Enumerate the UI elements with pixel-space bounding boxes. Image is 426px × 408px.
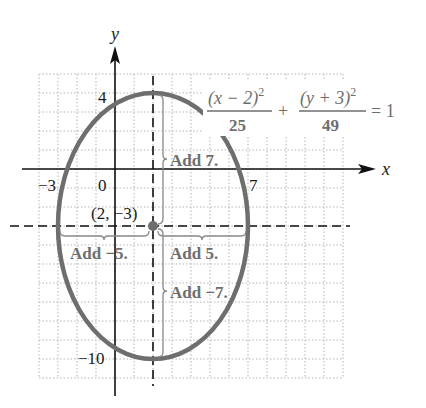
eq-numerator-1: (x − 2)2 bbox=[208, 85, 264, 109]
brace-up bbox=[158, 95, 167, 224]
brace-down bbox=[158, 229, 167, 357]
center-point bbox=[148, 221, 158, 231]
tick-x-7: 7 bbox=[249, 176, 258, 195]
tick-x-neg3: −3 bbox=[38, 176, 56, 195]
add-up-label: Add 7. bbox=[170, 151, 218, 170]
eq-denominator-2: 49 bbox=[322, 116, 339, 135]
ellipse-graph: y x −3 0 7 4 −10 (2, −3) Add 7. Add −5. … bbox=[0, 0, 426, 408]
y-axis-label: y bbox=[109, 24, 119, 44]
add-down-label: Add −7. bbox=[170, 283, 228, 302]
x-axis-label: x bbox=[381, 159, 390, 179]
center-label: (2, −3) bbox=[91, 204, 137, 223]
eq-plus: + bbox=[278, 101, 288, 121]
eq-denominator-1: 25 bbox=[229, 116, 246, 135]
add-left-label: Add −5. bbox=[70, 244, 128, 263]
tick-y-4: 4 bbox=[98, 88, 107, 107]
tick-y-neg10: −10 bbox=[78, 349, 105, 368]
tick-x-0: 0 bbox=[98, 176, 107, 195]
brace-left bbox=[60, 231, 149, 240]
brace-right bbox=[158, 231, 246, 240]
add-right-label: Add 5. bbox=[170, 244, 218, 263]
eq-numerator-2: (y + 3)2 bbox=[300, 85, 356, 109]
ellipse-equation: (x − 2)2 25 + (y + 3)2 49 = 1 bbox=[203, 80, 408, 136]
eq-rhs: = 1 bbox=[371, 101, 395, 121]
